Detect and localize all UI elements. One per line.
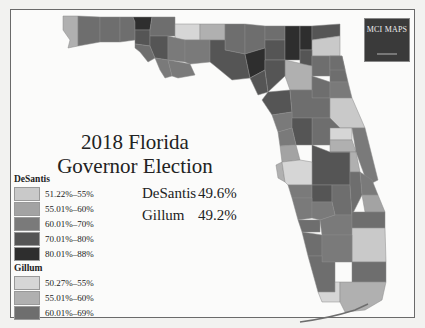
county-levy[interactable] (262, 90, 292, 115)
legend-swatch (14, 291, 40, 305)
legend-range: 60.01%–69% (45, 308, 94, 318)
map-legend: DeSantis 51.22%–55% 55.01%–60% 60.01%–70… (14, 174, 94, 321)
county-clay[interactable] (312, 56, 330, 76)
title-line-1: 2018 Florida (40, 130, 230, 154)
county-highlands[interactable] (332, 185, 352, 215)
county-jefferson[interactable] (225, 24, 245, 54)
legend-swatch (14, 247, 40, 261)
legend-swatch (14, 232, 40, 246)
county-st-lucie[interactable] (362, 195, 385, 212)
county-columbia[interactable] (285, 26, 300, 60)
county-gadsden[interactable] (175, 24, 200, 40)
county-lee[interactable] (302, 232, 322, 256)
county-pasco[interactable] (280, 145, 300, 162)
legend-item: 60.01%–70% (14, 217, 94, 231)
county-hamilton[interactable] (265, 26, 285, 40)
legend-range: 60.01%–70% (45, 219, 94, 229)
legend-group-gillum: Gillum (14, 263, 94, 273)
county-martin[interactable] (352, 212, 385, 228)
county-suwannee[interactable] (265, 40, 285, 60)
candidate-name: DeSantis (142, 185, 198, 207)
county-walton[interactable] (120, 17, 135, 42)
county-okeechobee[interactable] (350, 172, 362, 215)
legend-item: 55.01%–60% (14, 291, 94, 305)
county-hardee[interactable] (312, 185, 332, 202)
county-wakulla[interactable] (185, 40, 210, 64)
legend-swatch (14, 217, 40, 231)
county-hendry[interactable] (322, 235, 352, 262)
candidate-name: Gillum (142, 207, 198, 229)
county-santa-rosa[interactable] (78, 16, 100, 46)
map-title: 2018 Florida Governor Election (40, 130, 230, 178)
county-liberty[interactable] (168, 36, 185, 62)
result-row-gillum: Gillum 49.2% (142, 207, 237, 229)
county-marion-east[interactable] (330, 56, 345, 70)
county-washington[interactable] (135, 30, 150, 46)
legend-range: 80.01%–88% (45, 249, 94, 259)
legend-item: 55.01%–60% (14, 202, 94, 216)
county-charlotte[interactable] (298, 220, 320, 232)
legend-range: 70.01%–80% (45, 234, 94, 244)
county-okaloosa[interactable] (100, 17, 120, 42)
mci-maps-logo: MCI MAPS (364, 18, 410, 62)
legend-range: 51.22%–55% (45, 189, 94, 199)
legend-range: 55.01%–60% (45, 204, 94, 214)
logo-text: MCI MAPS (365, 25, 409, 34)
logo-tagline-bar (377, 53, 397, 55)
legend-group-desantis: DeSantis (14, 174, 94, 184)
legend-item: 80.01%–88% (14, 247, 94, 261)
county-putnam[interactable] (312, 76, 330, 98)
county-flagler[interactable] (330, 82, 352, 98)
county-miami-dade[interactable] (340, 282, 386, 312)
county-seminole[interactable] (330, 128, 352, 140)
legend-range: 55.01%–60% (45, 293, 94, 303)
county-jackson[interactable] (150, 17, 175, 36)
legend-swatch (14, 276, 40, 290)
legend-item: 51.22%–55% (14, 187, 94, 201)
county-manatee[interactable] (288, 185, 312, 198)
legend-item: 60.01%–69% (14, 306, 94, 320)
county-hillsborough[interactable] (282, 160, 312, 185)
legend-swatch (14, 306, 40, 320)
county-escambia[interactable] (63, 16, 78, 48)
county-palm-beach[interactable] (352, 228, 386, 262)
candidate-share: 49.2% (198, 207, 237, 229)
result-row-desantis: DeSantis 49.6% (142, 185, 237, 207)
county-sarasota[interactable] (292, 198, 312, 220)
candidate-share: 49.6% (198, 185, 237, 207)
county-broward[interactable] (352, 262, 386, 282)
legend-item: 50.27%–55% (14, 276, 94, 290)
legend-range: 50.27%–55% (45, 278, 94, 288)
statewide-results: DeSantis 49.6% Gillum 49.2% (142, 185, 237, 229)
county-leon[interactable] (200, 24, 225, 40)
county-gilchrist[interactable] (265, 60, 285, 92)
county-orange[interactable] (330, 140, 356, 152)
legend-swatch (14, 202, 40, 216)
legend-item: 70.01%–80% (14, 232, 94, 246)
county-baker[interactable] (300, 26, 312, 50)
legend-swatch (14, 187, 40, 201)
county-holmes[interactable] (133, 17, 152, 30)
